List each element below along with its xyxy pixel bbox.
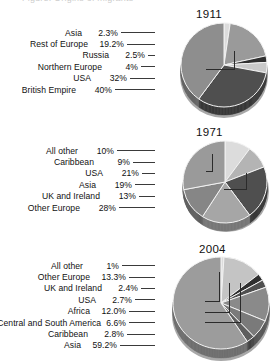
legend-label: Asia: [65, 28, 82, 38]
leader-line: [135, 299, 155, 300]
leader-line: [115, 89, 155, 90]
legend-row: Central and South America6.6%: [0, 317, 155, 328]
label-column-1971: All other10%Caribbean9%USA21%Asia19%UK a…: [0, 145, 155, 213]
legend-value: 2.3%: [87, 28, 118, 38]
legend-label: All other: [51, 261, 83, 271]
legend-row: All other1%: [0, 260, 155, 271]
cropped-caption-sliver: Figure: Origins of migrants: [0, 0, 274, 7]
legend-value: 59.2%: [86, 340, 117, 350]
pie-slice: [183, 141, 225, 190]
legend-row: Asia59.2%: [0, 340, 155, 351]
elbow-usa-1911: [206, 69, 235, 70]
leader-line: [135, 184, 155, 185]
pie-chart-block-1911: 1911 Asia2.3%Rest of Europe19.2%Russia2.…: [0, 8, 274, 120]
legend-value: 10%: [83, 146, 114, 156]
elbow-uk-vert-1971: [246, 173, 247, 190]
legend-row: Caribbean2.8%: [0, 328, 155, 339]
pie-chart-block-1971: 1971 All other10%Caribbean9%USA21%Asia19…: [0, 126, 274, 238]
legend-label: All other: [46, 146, 78, 156]
elbow-uk-h-1971: [224, 189, 247, 190]
legend-row: Africa12.0%: [0, 306, 155, 317]
pie-2004: [168, 255, 274, 363]
legend-row: UK and Ireland2.4%: [0, 283, 155, 294]
legend-label: USA: [85, 168, 103, 178]
legend-label: Caribbean: [48, 329, 88, 339]
legend-row: Other Europe13.3%: [0, 271, 155, 282]
legend-value: 13.3%: [95, 272, 126, 282]
leader-line: [127, 334, 155, 335]
legend-label: USA: [78, 295, 96, 305]
leader-line: [142, 173, 155, 174]
legend-label: Other Europe: [38, 272, 90, 282]
pie-slices-1911: [176, 21, 272, 120]
pie-1971: [180, 138, 272, 234]
legend-row: Caribbean9%: [0, 156, 155, 167]
legend-label: Caribbean: [54, 157, 94, 167]
legend-row: Rest of Europe19.2%: [0, 38, 155, 49]
leader-line: [129, 277, 155, 278]
legend-label: Central and South America: [0, 318, 101, 328]
cropped-caption-text: Figure: Origins of migrants: [22, 0, 133, 3]
leader-line: [129, 322, 155, 323]
legend-row: Asia2.3%: [0, 27, 155, 38]
label-column-2004: All other1%Other Europe13.3%UK and Irela…: [0, 260, 155, 351]
chart-title-2004: 2004: [199, 243, 226, 255]
legend-row: Russia2.5%: [0, 50, 155, 61]
legend-label: UK and Ireland: [44, 283, 102, 293]
label-column-1911: Asia2.3%Rest of Europe19.2%Russia2.5%Nor…: [0, 27, 155, 95]
legend-value: 9%: [99, 157, 130, 167]
elbow-othereurope-vert-2004: [219, 272, 220, 302]
pie-slices-2004: [168, 255, 274, 363]
elbow-allother-h-1971: [206, 171, 213, 172]
legend-value: 6.6%: [106, 318, 126, 328]
legend-label: USA: [73, 73, 91, 83]
elbow-csa-vert-2004: [240, 283, 241, 323]
legend-value: 2.4%: [107, 283, 138, 293]
leader-line: [129, 311, 155, 312]
leader-line: [141, 288, 155, 289]
elbow-allother-vert-1971: [212, 154, 213, 172]
elbow-csa-h-2004: [205, 322, 241, 323]
legend-row: UK and Ireland13%: [0, 191, 155, 202]
legend-value: 4%: [107, 62, 138, 72]
legend-value: 40%: [81, 85, 112, 95]
leader-line: [121, 32, 155, 33]
legend-label: Africa: [68, 306, 90, 316]
legend-row: All other10%: [0, 145, 155, 156]
legend-label: Russia: [82, 50, 109, 60]
pie-chart-block-2004: 2004 All other1%Other Europe13.3%UK and …: [0, 243, 274, 363]
legend-value: 13%: [105, 191, 136, 201]
legend-label: Asia: [79, 180, 96, 190]
legend-value: 21%: [108, 168, 139, 178]
elbow-africa-h-2004: [205, 312, 230, 313]
chart-title-1911: 1911: [196, 8, 222, 20]
legend-label: Other Europe: [28, 203, 80, 213]
legend-value: 2.5%: [114, 50, 145, 60]
legend-label: Asia: [64, 340, 81, 350]
legend-value: 19%: [101, 180, 132, 190]
leader-line: [148, 55, 155, 56]
pie-1911: [176, 21, 272, 120]
legend-row: Northern Europe4%: [0, 61, 155, 72]
legend-label: Rest of Europe: [30, 39, 88, 49]
leader-line: [130, 78, 155, 79]
legend-label: British Empire: [22, 85, 76, 95]
leader-line: [122, 265, 155, 266]
legend-row: Asia19%: [0, 179, 155, 190]
legend-value: 12.0%: [95, 306, 126, 316]
legend-row: British Empire40%: [0, 84, 155, 95]
legend-row: USA32%: [0, 73, 155, 84]
leader-line: [119, 207, 155, 208]
legend-value: 28%: [85, 203, 116, 213]
legend-value: 19.2%: [93, 39, 124, 49]
leader-line: [141, 66, 155, 67]
legend-value: 32%: [96, 73, 127, 83]
legend-value: 1%: [88, 261, 119, 271]
leader-line: [120, 345, 155, 346]
leader-line: [139, 196, 155, 197]
leader-line: [127, 44, 155, 45]
elbow-othereurope-h-2004: [205, 301, 220, 302]
legend-row: Other Europe28%: [0, 202, 155, 213]
legend-label: UK and Ireland: [42, 191, 100, 201]
legend-value: 2.7%: [101, 295, 132, 305]
